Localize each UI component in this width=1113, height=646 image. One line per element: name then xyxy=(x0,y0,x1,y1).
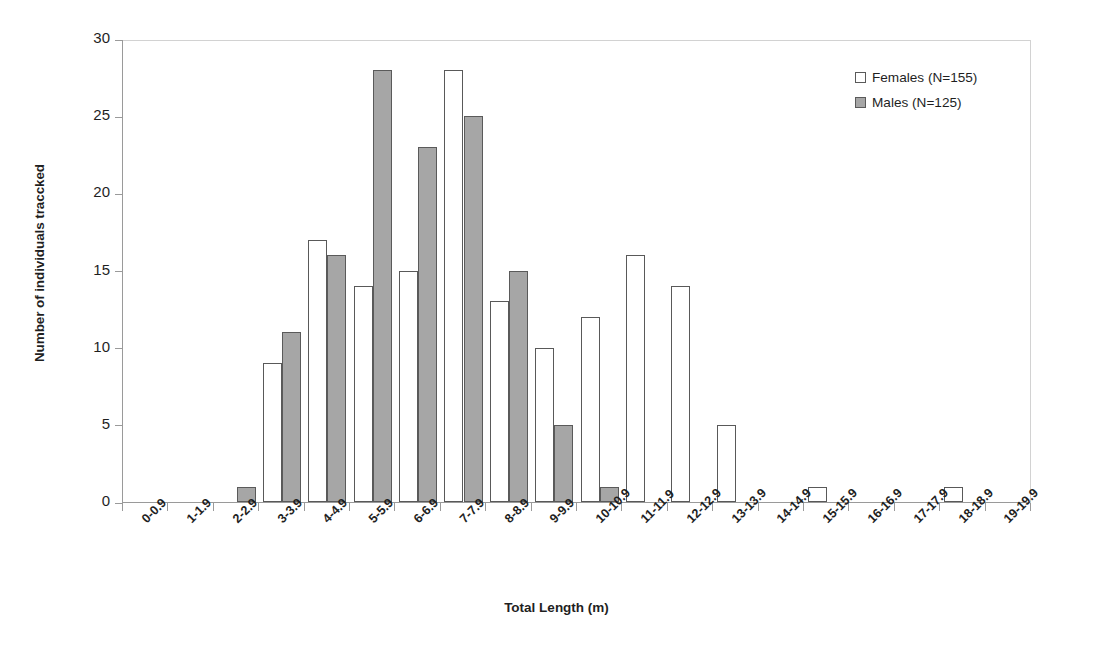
y-tick-label: 10 xyxy=(70,338,110,355)
y-tick-label: 30 xyxy=(70,29,110,46)
histogram-chart: Number of individuals traccked 051015202… xyxy=(0,0,1113,646)
legend-label-females: Females (N=155) xyxy=(872,70,977,85)
bar xyxy=(535,348,554,502)
bar xyxy=(418,147,437,502)
legend-label-males: Males (N=125) xyxy=(872,95,962,110)
gray-square-icon xyxy=(855,97,866,108)
y-tick-mark xyxy=(115,503,122,504)
y-tick-label: 15 xyxy=(70,261,110,278)
bar xyxy=(626,255,645,502)
y-tick-label: 5 xyxy=(70,415,110,432)
bar xyxy=(444,70,463,502)
bar xyxy=(490,301,509,502)
bar xyxy=(327,255,346,502)
chart-legend: Females (N=155) Males (N=125) xyxy=(855,70,977,120)
bar xyxy=(263,363,282,502)
bar xyxy=(354,286,373,502)
y-tick-label: 25 xyxy=(70,106,110,123)
x-axis-title: Total Length (m) xyxy=(0,600,1113,615)
y-tick-label: 0 xyxy=(70,492,110,509)
y-tick-label: 20 xyxy=(70,183,110,200)
y-tick-mark xyxy=(115,40,122,41)
y-tick-mark xyxy=(115,117,122,118)
legend-item-females: Females (N=155) xyxy=(855,70,977,85)
plot-frame-right-border xyxy=(1030,40,1031,503)
bar xyxy=(464,116,483,502)
bar xyxy=(671,286,690,502)
white-square-icon xyxy=(855,72,866,83)
y-tick-mark xyxy=(115,348,122,349)
bar xyxy=(581,317,600,502)
bar xyxy=(373,70,392,502)
y-axis-title: Number of individuals traccked xyxy=(32,73,52,453)
y-tick-mark xyxy=(115,194,122,195)
legend-item-males: Males (N=125) xyxy=(855,95,977,110)
bar xyxy=(554,425,573,502)
bar xyxy=(282,332,301,502)
y-tick-mark xyxy=(115,271,122,272)
y-tick-mark xyxy=(115,425,122,426)
x-tick-mark xyxy=(122,503,123,511)
bar xyxy=(399,271,418,503)
bar xyxy=(308,240,327,502)
bar xyxy=(509,271,528,503)
